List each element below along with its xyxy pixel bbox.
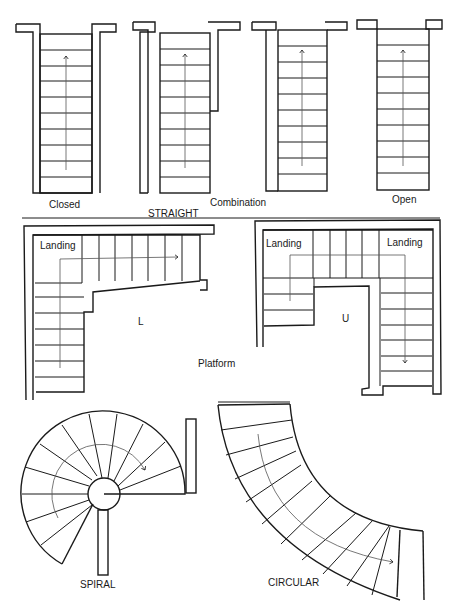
u-landing-left-label: Landing (266, 238, 302, 249)
closed-stair-diagram (16, 24, 116, 193)
straight-stair-diagram (252, 22, 347, 191)
l-landing-label: Landing (40, 240, 76, 251)
combination-label: Combination (210, 197, 266, 208)
open-label: Open (392, 194, 416, 205)
combination-stair-diagram (133, 22, 240, 193)
closed-label: Closed (49, 199, 80, 210)
u-type-label: U (342, 313, 349, 324)
staircase-types-diagram (0, 0, 459, 609)
platform-group-label: Platform (198, 358, 235, 369)
u-landing-right-label: Landing (387, 237, 423, 248)
spiral-stair-diagram (21, 411, 196, 575)
spiral-label: SPIRAL (80, 579, 116, 590)
straight-group-label: STRAIGHT (148, 208, 199, 219)
open-stair-diagram (357, 20, 442, 190)
circular-stair-diagram (218, 404, 424, 600)
l-platform-stair-diagram (24, 225, 214, 400)
l-type-label: L (138, 316, 144, 327)
circular-label: CIRCULAR (268, 577, 319, 588)
